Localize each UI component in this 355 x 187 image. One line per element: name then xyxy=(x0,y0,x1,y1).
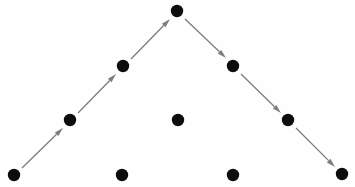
node-dot[interactable] xyxy=(64,114,76,126)
node-dot[interactable] xyxy=(171,5,183,17)
node-dot[interactable] xyxy=(117,60,129,72)
node-dot[interactable] xyxy=(116,169,128,181)
node-dot[interactable] xyxy=(336,168,348,180)
diagram-canvas xyxy=(0,0,355,187)
dot-path-diagram xyxy=(0,0,355,187)
node-dot[interactable] xyxy=(227,60,239,72)
node-dot[interactable] xyxy=(172,114,184,126)
node-dot[interactable] xyxy=(8,169,20,181)
node-dot[interactable] xyxy=(282,114,294,126)
node-dot[interactable] xyxy=(227,169,239,181)
canvas-background xyxy=(0,0,355,187)
